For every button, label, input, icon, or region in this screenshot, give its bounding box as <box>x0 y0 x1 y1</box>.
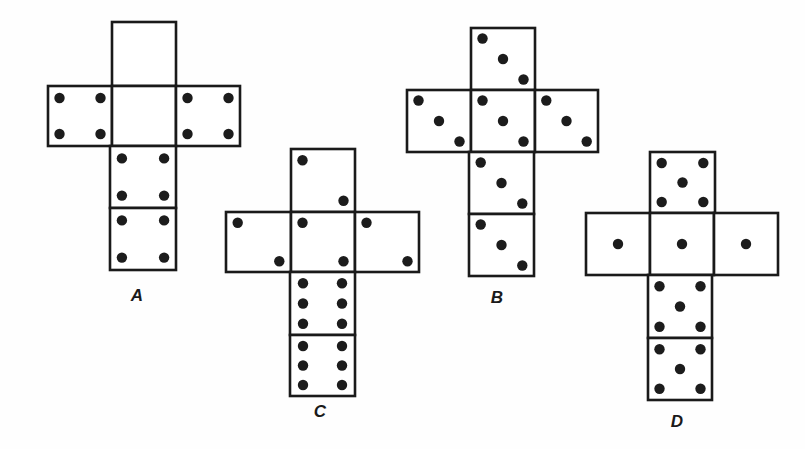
pip-dot-icon <box>182 129 192 139</box>
pip-dot-icon <box>654 281 664 291</box>
die-face-middle-center <box>112 86 176 146</box>
cube-net-a <box>48 22 240 270</box>
cube-net-b <box>407 28 598 276</box>
pip-dot-icon <box>476 157 486 167</box>
die-face-top <box>471 28 535 90</box>
pip-dot-icon <box>434 116 444 126</box>
die-face-lower-1 <box>648 275 712 338</box>
pip-dot-icon <box>613 239 623 249</box>
pip-dot-icon <box>695 322 705 332</box>
pip-dot-icon <box>337 360 347 370</box>
pip-dot-icon <box>454 136 464 146</box>
pip-dot-icon <box>298 298 308 308</box>
pip-dot-icon <box>337 380 347 390</box>
pip-dot-icon <box>159 215 169 225</box>
die-face-lower-1 <box>110 146 176 208</box>
pip-dot-icon <box>337 298 347 308</box>
net-label-c: C <box>314 402 326 422</box>
pip-dot-icon <box>337 278 347 288</box>
pip-dot-icon <box>337 341 347 351</box>
pip-dot-icon <box>477 33 487 43</box>
die-face-middle-right <box>355 212 419 272</box>
pip-dot-icon <box>498 116 508 126</box>
pip-dot-icon <box>95 93 105 103</box>
cube-net-c <box>226 149 419 396</box>
die-face-lower-2 <box>290 335 355 396</box>
pip-dot-icon <box>117 153 127 163</box>
die-face-lower-1 <box>290 272 355 335</box>
cube-nets-figure: A C B D <box>0 0 805 449</box>
pip-dot-icon <box>518 74 528 84</box>
die-face-middle-left <box>226 212 291 272</box>
pip-dot-icon <box>117 252 127 262</box>
die-face-middle-left <box>407 90 471 152</box>
die-face-top <box>650 152 715 213</box>
pip-dot-icon <box>477 95 487 105</box>
pip-dot-icon <box>657 197 667 207</box>
die-face-middle-right <box>535 90 598 152</box>
pip-dot-icon <box>159 190 169 200</box>
pip-dot-icon <box>298 278 308 288</box>
die-face-top <box>291 149 355 212</box>
net-label-b: B <box>491 288 503 308</box>
die-face-lower-2 <box>110 208 176 270</box>
die-face-lower-1 <box>469 152 534 214</box>
die-face-middle-center <box>471 90 535 152</box>
pip-dot-icon <box>297 218 307 228</box>
pip-dot-icon <box>476 219 486 229</box>
face-outline <box>112 86 176 146</box>
pip-dot-icon <box>361 218 371 228</box>
pip-dot-icon <box>337 319 347 329</box>
pip-dot-icon <box>654 322 664 332</box>
pip-dot-icon <box>233 218 243 228</box>
pip-dot-icon <box>582 136 592 146</box>
pip-dot-icon <box>223 129 233 139</box>
pip-dot-icon <box>182 93 192 103</box>
pip-dot-icon <box>517 260 527 270</box>
pip-dot-icon <box>223 93 233 103</box>
pip-dot-icon <box>517 198 527 208</box>
pip-dot-icon <box>413 95 423 105</box>
pip-dot-icon <box>561 116 571 126</box>
pip-dot-icon <box>675 364 685 374</box>
pip-dot-icon <box>297 155 307 165</box>
pip-dot-icon <box>498 54 508 64</box>
die-face-lower-2 <box>469 214 534 276</box>
pip-dot-icon <box>54 93 64 103</box>
pip-dot-icon <box>338 256 348 266</box>
die-face-middle-center <box>650 213 714 275</box>
pip-dot-icon <box>402 256 412 266</box>
die-face-middle-center <box>291 212 355 272</box>
face-outline <box>112 22 176 86</box>
pip-dot-icon <box>698 197 708 207</box>
pip-dot-icon <box>338 196 348 206</box>
pip-dot-icon <box>695 281 705 291</box>
pip-dot-icon <box>677 177 687 187</box>
pip-dot-icon <box>117 190 127 200</box>
net-label-d: D <box>671 412 683 432</box>
pip-dot-icon <box>741 239 751 249</box>
pip-dot-icon <box>675 301 685 311</box>
pip-dot-icon <box>298 319 308 329</box>
pip-dot-icon <box>159 252 169 262</box>
pip-dot-icon <box>95 129 105 139</box>
die-face-top <box>112 22 176 86</box>
die-face-middle-right <box>714 213 778 275</box>
cube-net-d <box>586 152 778 400</box>
die-face-middle-left <box>48 86 112 146</box>
die-face-middle-right <box>176 86 240 146</box>
pip-dot-icon <box>695 344 705 354</box>
pip-dot-icon <box>518 136 528 146</box>
pip-dot-icon <box>654 384 664 394</box>
pip-dot-icon <box>698 158 708 168</box>
pip-dot-icon <box>496 240 506 250</box>
pip-dot-icon <box>677 239 687 249</box>
pip-dot-icon <box>541 95 551 105</box>
die-face-lower-2 <box>648 338 712 400</box>
pip-dot-icon <box>117 215 127 225</box>
pip-dot-icon <box>657 158 667 168</box>
net-label-a: A <box>131 286 143 306</box>
nets-canvas <box>0 0 805 449</box>
pip-dot-icon <box>54 129 64 139</box>
pip-dot-icon <box>695 384 705 394</box>
